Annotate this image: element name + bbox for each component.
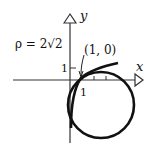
x-tick-label: 1 — [80, 86, 87, 99]
radius-of-curvature-label: ρ = 2√2 — [15, 37, 63, 51]
y-tick-label: 1 — [61, 62, 68, 75]
point-label: (1, 0) — [84, 43, 116, 57]
y-axis-arrow-icon — [64, 14, 76, 23]
y-axis-label: y — [79, 8, 88, 23]
curvature-diagram: y x 1 1 ρ = 2√2 (1, 0) — [0, 0, 152, 157]
x-axis-arrow-icon — [135, 74, 143, 86]
x-axis-label: x — [136, 59, 144, 74]
